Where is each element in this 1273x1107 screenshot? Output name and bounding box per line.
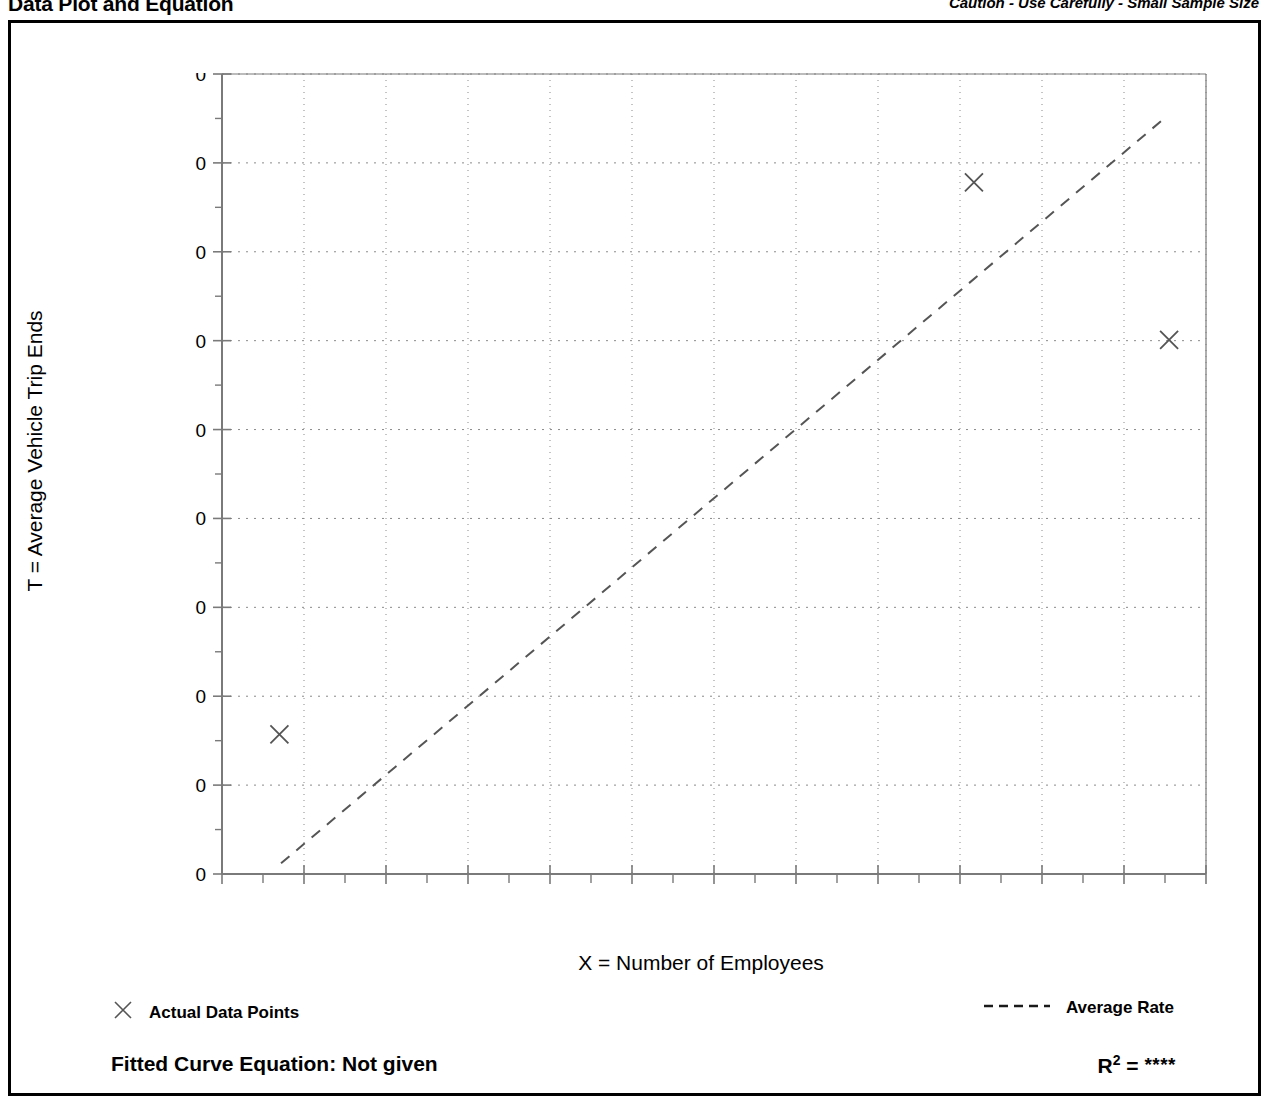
legend-item-label: Average Rate <box>1066 998 1174 1018</box>
y-tick-label: 200 <box>195 864 206 884</box>
data-point-marker <box>1160 331 1178 349</box>
y-tick-label: 300 <box>195 775 206 796</box>
x-axis-title: X = Number of Employees <box>191 951 1211 975</box>
r-squared-equals: = <box>1126 1054 1138 1077</box>
dashed-line-icon <box>982 998 1052 1018</box>
y-tick-label: 400 <box>195 686 206 707</box>
plot-area: 2003004005006007008009001,0001,100200300… <box>195 73 1214 884</box>
data-point-marker <box>270 725 288 743</box>
y-tick-label: 1,100 <box>195 73 206 85</box>
y-tick-label: 600 <box>195 508 206 529</box>
y-tick-label: 500 <box>195 597 206 618</box>
data-point-marker <box>965 173 983 191</box>
y-axis-title: T = Average Vehicle Trip Ends <box>23 71 47 831</box>
header-band: Data Plot and Equation Caution - Use Car… <box>0 0 1273 20</box>
y-tick-label: 700 <box>195 420 206 441</box>
x-marker-icon <box>111 998 135 1027</box>
r-squared-stars: **** <box>1144 1054 1176 1075</box>
page-title: Data Plot and Equation <box>8 0 233 16</box>
chart-frame: T = Average Vehicle Trip Ends 2003004005… <box>8 20 1261 1096</box>
y-tick-label: 800 <box>195 331 206 352</box>
equation-row: Fitted Curve Equation: Not given R2 = **… <box>11 1052 1264 1092</box>
legend: Actual Data Points Average Rate <box>11 998 1264 1032</box>
scatter-plot-svg: 2003004005006007008009001,0001,100200300… <box>195 73 1214 884</box>
legend-item-average-rate: Average Rate <box>982 998 1174 1018</box>
caution-note: Caution - Use Carefully - Small Sample S… <box>949 0 1259 11</box>
r-squared-value: R2 = **** <box>1098 1052 1177 1078</box>
fitted-curve-equation: Fitted Curve Equation: Not given <box>111 1052 438 1076</box>
y-tick-label: 900 <box>195 242 206 263</box>
r-squared-symbol: R <box>1098 1054 1113 1077</box>
legend-item-label: Actual Data Points <box>149 1003 299 1023</box>
legend-item-actual-data-points: Actual Data Points <box>111 998 299 1027</box>
trend-line <box>281 116 1167 864</box>
y-tick-label: 1,000 <box>195 153 206 174</box>
